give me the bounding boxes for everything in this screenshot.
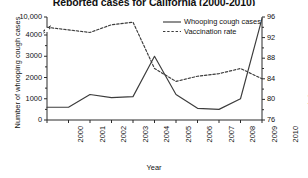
legend-label-1: Vaccination rate [184,27,236,36]
plot-area [0,0,308,178]
legend-label-0: Whooping cough cases [184,17,261,26]
chart-legend [163,22,181,32]
chart-figure: Reported cases for California (2000-2010… [0,0,308,178]
